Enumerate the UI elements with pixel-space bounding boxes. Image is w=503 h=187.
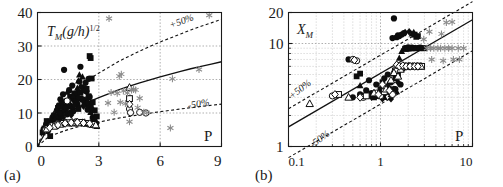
panel-a-x-tick-labels: 0369 (38, 153, 222, 169)
chart-panel-b: 0.1110 11020 XM P (b) +50%-50% (251, 0, 503, 187)
x-tick-label: 1 (377, 154, 384, 169)
data-point (306, 100, 313, 107)
y-tick-label: 10 (18, 106, 33, 122)
data-point (61, 67, 67, 73)
x-tick-label: 6 (156, 153, 164, 169)
y-tick-label: 10 (269, 36, 284, 52)
data-point (111, 109, 117, 116)
panel-a-y-axis-label: TM(g/h)1/2 (47, 24, 100, 42)
data-point (126, 118, 132, 125)
y-tick-label: 20 (269, 5, 284, 21)
data-point (127, 110, 133, 116)
y-tick-label: 20 (18, 72, 33, 88)
data-point (373, 81, 379, 87)
y-tick-label: 30 (18, 39, 33, 55)
panel-b-x-tick-labels: 0.1110 (289, 154, 473, 169)
series-gray-star (421, 18, 467, 64)
data-point (105, 99, 111, 106)
data-point (449, 18, 455, 25)
panel-b-data-points (306, 15, 467, 106)
y-tick-label: 1 (276, 139, 284, 155)
band-annotation: +50% (168, 11, 195, 30)
panel-b-label: (b) (255, 167, 273, 184)
figure-container: 0369 010203040 TM(g/h)1/2 P (a) +50%-50%… (0, 0, 503, 187)
panel-a-y-tick-labels: 010203040 (18, 5, 33, 155)
y-tick-label: 0 (25, 139, 33, 155)
data-point (366, 77, 372, 83)
panel-a-label: (a) (4, 167, 21, 184)
data-point (137, 95, 143, 102)
x-tick-label: 0.1 (289, 154, 305, 169)
panel-b-x-axis-label: P (455, 128, 463, 144)
data-point (88, 55, 94, 61)
data-point (77, 64, 83, 70)
data-point (64, 98, 70, 104)
data-point (47, 133, 53, 139)
data-point (391, 15, 397, 21)
data-point (421, 36, 427, 43)
band-annotation: +50% (287, 77, 314, 101)
x-tick-label: 3 (95, 153, 103, 169)
data-point (76, 71, 83, 77)
panel-b-svg: 0.1110 11020 XM P (b) +50%-50% (251, 0, 503, 187)
data-point (169, 75, 175, 82)
panel-b-y-tick-labels: 11020 (269, 5, 284, 155)
panel-b-y-axis-label: XM (296, 22, 314, 40)
panel-a-x-axis-label: P (204, 128, 212, 144)
panel-b-annotations: +50%-50% (287, 77, 332, 150)
panel-a-annotations: +50%-50% (168, 11, 210, 110)
data-point (89, 76, 95, 82)
band-annotation: -50% (187, 96, 210, 110)
data-point (396, 55, 403, 61)
panel-a-svg: 0369 010203040 TM(g/h)1/2 P (a) +50%-50% (0, 0, 252, 187)
data-point (357, 82, 364, 88)
data-point (106, 15, 112, 22)
series-gray-star (105, 12, 212, 132)
y-tick-label: 40 (18, 5, 33, 21)
data-point (167, 125, 173, 132)
data-point (363, 93, 369, 99)
chart-panel-a: 0369 010203040 TM(g/h)1/2 P (a) +50%-50% (0, 0, 252, 187)
data-point (357, 71, 363, 77)
x-tick-label: 10 (460, 154, 473, 169)
data-point (443, 19, 449, 26)
data-point (69, 82, 75, 88)
data-point (75, 106, 81, 112)
data-point (426, 28, 432, 35)
x-tick-label: 0 (38, 153, 46, 169)
data-point (385, 71, 391, 77)
x-tick-label: 9 (214, 153, 222, 169)
data-point (440, 57, 446, 64)
